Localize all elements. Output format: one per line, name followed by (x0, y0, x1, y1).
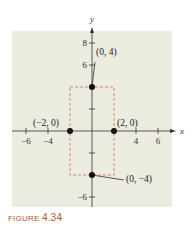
y-axis-label: y (89, 14, 94, 24)
figure-caption: FIGURE 4.34 (8, 212, 62, 223)
x-axis-label: x (179, 126, 184, 136)
data-point (111, 128, 117, 134)
x-tick-label: −6 (21, 136, 31, 146)
coordinate-plot: xy−6−44686−6(0, 4)(−2, 0)(2, 0)(0, −4) (0, 0, 196, 229)
y-tick-label: 8 (83, 38, 88, 48)
caption-number: 4.34 (42, 212, 62, 223)
point-label: (0, 4) (96, 47, 117, 58)
data-point (89, 84, 95, 90)
point-label: (0, −4) (126, 174, 152, 185)
y-axis-arrow-icon (90, 27, 94, 33)
x-tick-label: 6 (156, 136, 161, 146)
y-tick-label: −6 (77, 192, 87, 202)
x-tick-label: 4 (134, 136, 139, 146)
point-label: (2, 0) (117, 118, 138, 129)
point-label: (−2, 0) (33, 118, 59, 129)
x-tick-label: −4 (43, 136, 53, 146)
x-axis-arrow-icon (170, 129, 176, 133)
data-point (89, 172, 95, 178)
caption-prefix: FIGURE (8, 214, 39, 223)
y-tick-label: 6 (83, 60, 88, 70)
data-point (67, 128, 73, 134)
